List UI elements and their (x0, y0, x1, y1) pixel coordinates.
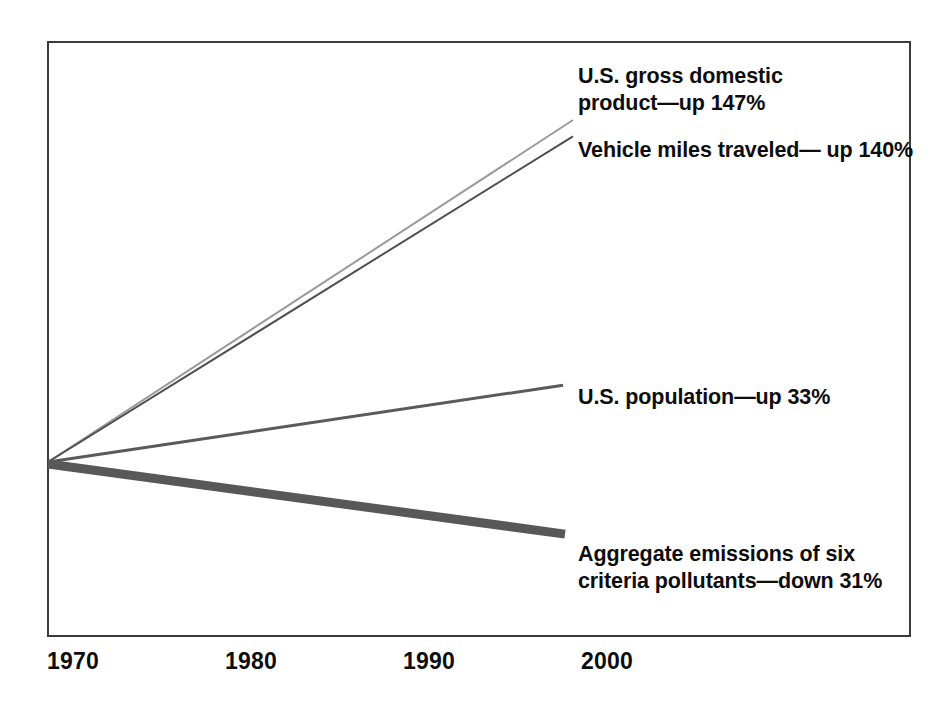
series-label-us-population: U.S. population—up 33% (578, 384, 830, 411)
x-axis-tick-2000: 2000 (581, 648, 633, 675)
series-label-gdp: U.S. gross domestic product—up 147% (578, 63, 783, 117)
series-label-vehicle-miles-traveled: Vehicle miles traveled— up 140% (578, 137, 913, 164)
series-label-aggregate-emissions: Aggregate emissions of six criteria poll… (578, 541, 882, 595)
x-axis-tick-1990: 1990 (403, 648, 455, 675)
comparison-of-growth-areas-and-emissions-chart: U.S. gross domestic product—up 147% Vehi… (0, 0, 947, 713)
x-axis-tick-1980: 1980 (225, 648, 277, 675)
x-axis-tick-1970: 1970 (47, 648, 99, 675)
